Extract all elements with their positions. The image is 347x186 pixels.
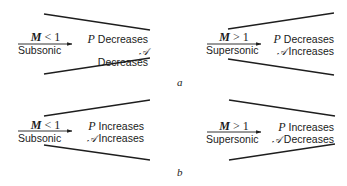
mach-condition: M > 1 xyxy=(206,30,262,45)
area-effect: 𝒜 Increases xyxy=(272,46,334,58)
flow-regime-label: Supersonic xyxy=(206,44,262,56)
flow-regime-label: Supersonic xyxy=(206,133,262,145)
area-effect: 𝒜 Decreases xyxy=(270,134,334,146)
panel-label-a: a xyxy=(177,76,183,88)
mach-condition: M > 1 xyxy=(206,119,262,134)
mach-condition: M < 1 xyxy=(18,118,73,133)
flow-regime-label: Subsonic xyxy=(18,132,73,144)
duct-walls xyxy=(0,0,347,186)
area-effect: 𝒜 Increases xyxy=(86,133,144,145)
area-effect: 𝒜 Decreases xyxy=(86,46,148,69)
effects-a-left: P Decreases 𝒜 Decreases xyxy=(86,34,148,69)
pressure-effect: P Decreases xyxy=(86,34,148,46)
effects-a-right: P Decreases 𝒜 Increases xyxy=(272,34,334,57)
duct-wall-bottom xyxy=(229,144,335,160)
effects-b-left: P Increases 𝒜 Increases xyxy=(86,121,144,144)
flow-regime-label: Subsonic xyxy=(18,44,73,56)
duct-wall-bottom xyxy=(228,59,334,75)
duct-wall-top xyxy=(229,100,335,116)
duct-wall-top xyxy=(44,100,150,116)
panel-label-b: b xyxy=(177,166,183,178)
duct-wall-top xyxy=(228,13,334,29)
effects-b-right: P Increases 𝒜 Decreases xyxy=(270,122,334,145)
duct-wall-bottom xyxy=(44,145,150,160)
duct-wall-top xyxy=(44,14,150,30)
mach-condition: M < 1 xyxy=(18,30,73,45)
